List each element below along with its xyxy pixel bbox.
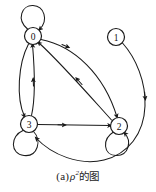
graph-node-2[interactable]: 2 [111, 118, 128, 135]
edge-0-to-2 [41, 40, 117, 118]
edge-2-to-0-mid-arrow [77, 79, 83, 85]
node-2-label: 2 [117, 122, 122, 132]
edge-self-loop-0 [21, 5, 44, 29]
graph-node-3[interactable]: 3 [21, 116, 38, 133]
caption-prefix: (a) [56, 170, 69, 182]
figure-panel: 0 1 2 3 (a)ρ2的图 [0, 0, 156, 192]
edge-3-to-2 [38, 125, 111, 126]
directed-graph-diagram: 0 1 2 3 [0, 0, 156, 192]
graph-node-1[interactable]: 1 [108, 29, 125, 46]
figure-caption: (a)ρ2的图 [0, 168, 156, 183]
node-0-label: 0 [31, 32, 36, 42]
node-3-label: 3 [27, 120, 32, 130]
node-layer: 0 1 2 3 [21, 28, 128, 135]
edge-self-loop-3 [13, 131, 38, 156]
caption-suffix: 的图 [79, 170, 99, 182]
edge-1-to-3-mid-arrow [145, 92, 146, 99]
edge-0-to-3 [19, 44, 28, 117]
node-1-label: 1 [114, 33, 119, 43]
edge-self-loop-2 [106, 132, 129, 156]
graph-node-0[interactable]: 0 [25, 28, 42, 45]
